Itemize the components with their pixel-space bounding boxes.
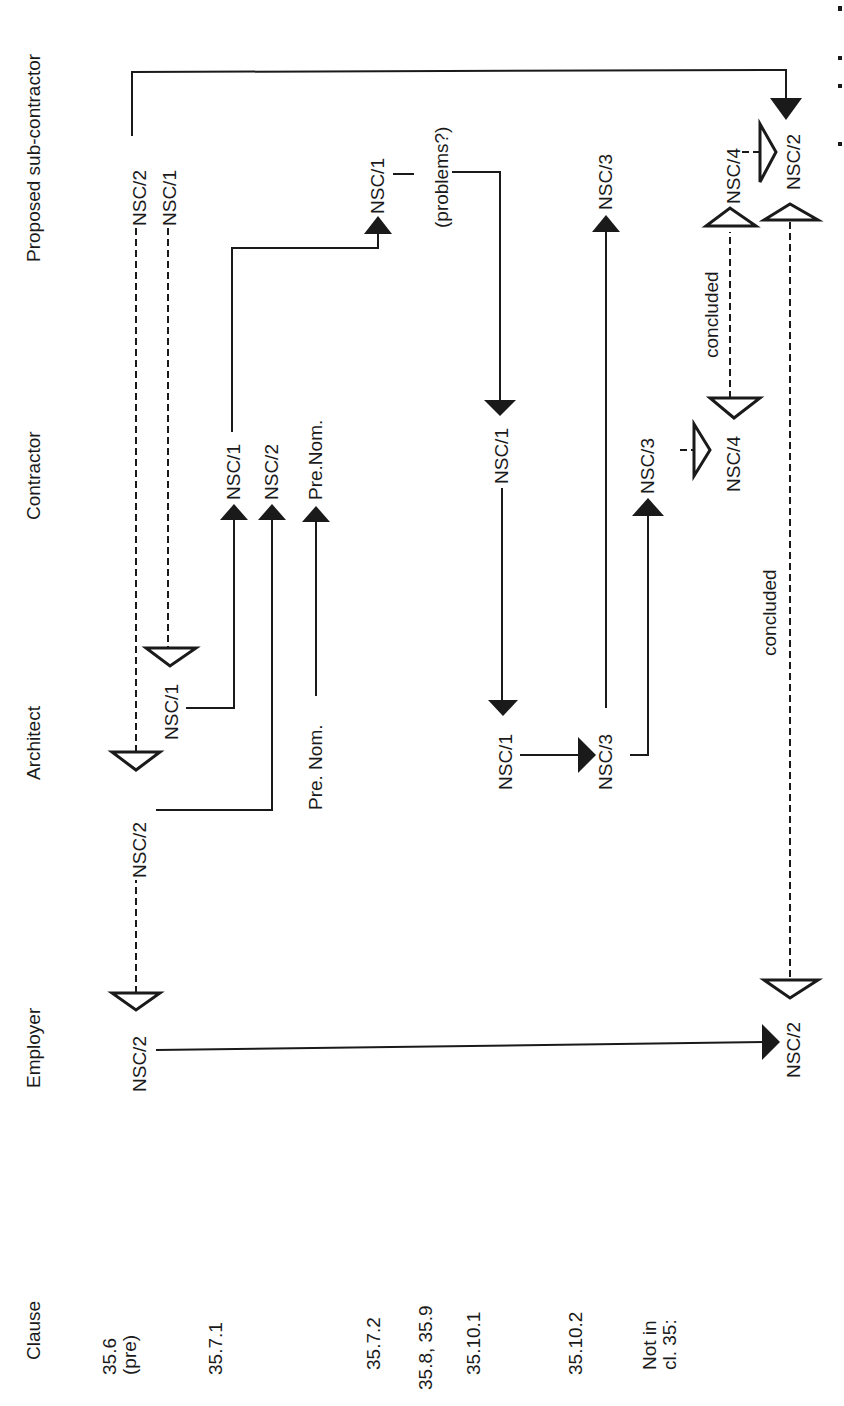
concluded-label-2: concluded bbox=[759, 569, 780, 656]
signed-triangle-icon bbox=[112, 752, 160, 770]
filled-arrow-icon bbox=[258, 504, 286, 520]
filled-arrow-icon bbox=[364, 216, 392, 234]
subcontractor-nsc2-b-label: NSC/2 bbox=[783, 134, 804, 190]
employer-nsc2-label: NSC/2 bbox=[129, 1036, 150, 1092]
clause-not-in-35-line1: Not in bbox=[639, 1320, 660, 1370]
subcontractor-nsc2-send-line bbox=[132, 70, 786, 136]
contractor-nsc4-label: NSC/4 bbox=[723, 436, 744, 492]
filled-arrow-icon bbox=[302, 506, 330, 522]
problems-label: (problems?) bbox=[431, 127, 452, 228]
employer-nsc2-send-arrow-line bbox=[156, 1042, 770, 1050]
clause-35-10-1: 35.10.1 bbox=[463, 1312, 484, 1375]
header-employer: Employer bbox=[23, 1007, 44, 1088]
clause-35-7-1: 35.7.1 bbox=[205, 1322, 226, 1375]
filled-arrow-icon bbox=[484, 400, 516, 416]
row-35-7-2: NSC/1 (problems?) NSC/1 bbox=[367, 127, 518, 716]
send-line bbox=[232, 228, 378, 432]
header-contractor: Contractor bbox=[23, 431, 44, 520]
send-line bbox=[186, 520, 234, 708]
filled-arrow-icon bbox=[488, 700, 518, 716]
contractor-prenom-label: Pre.Nom. bbox=[305, 420, 326, 500]
subcontractor-nsc3-label: NSC/3 bbox=[595, 154, 616, 210]
clause-35-8-35-9: 35.8, 35.9 bbox=[415, 1305, 436, 1390]
row-35-7-1: NSC/1 NSC/1 NSC/1 NSC/2 Pre. Nom. Pre.No… bbox=[146, 170, 392, 810]
signed-triangle-icon bbox=[760, 124, 776, 182]
clause-labels: 35.6 (pre) 35.7.1 35.7.2 35.8, 35.9 35.1… bbox=[99, 1305, 680, 1390]
clause-35-10-2: 35.10.2 bbox=[565, 1312, 586, 1375]
filled-arrow-icon bbox=[592, 215, 620, 232]
signed-triangle-icon bbox=[694, 424, 710, 476]
architect-nsc3-label: NSC/3 bbox=[595, 734, 616, 790]
contractor-nsc3-label: NSC/3 bbox=[637, 438, 658, 494]
subcontractor-nsc4-label: NSC/4 bbox=[723, 148, 744, 204]
column-headers: Clause Employer Architect Contractor Pro… bbox=[23, 53, 44, 1360]
signed-triangle-icon bbox=[764, 204, 818, 220]
filled-arrow-icon bbox=[220, 504, 248, 520]
caption-fragment bbox=[838, 6, 842, 146]
signed-triangle-icon bbox=[146, 648, 196, 666]
header-clause: Clause bbox=[23, 1301, 44, 1360]
filled-arrow-icon bbox=[762, 1024, 780, 1060]
signed-triangle-icon bbox=[706, 208, 756, 226]
architect-nsc1-c-label: NSC/1 bbox=[495, 734, 516, 790]
signed-triangle-icon bbox=[112, 993, 160, 1010]
concluded-label-1: concluded bbox=[701, 271, 722, 358]
send-line bbox=[452, 172, 500, 400]
architect-prenom-label: Pre. Nom. bbox=[305, 724, 326, 810]
header-subcontractor: Proposed sub-contractor bbox=[23, 53, 44, 262]
signed-triangle-icon bbox=[764, 980, 818, 998]
filled-arrow-icon bbox=[632, 498, 664, 516]
subcontractor-nsc1-b-label: NSC/1 bbox=[367, 158, 388, 214]
row-35-6: NSC/2 NSC/2 NSC/2 bbox=[112, 70, 802, 1092]
contractor-nsc2-label: NSC/2 bbox=[261, 444, 282, 500]
send-line bbox=[630, 516, 648, 755]
clause-35-6-pre: (pre) bbox=[119, 1335, 140, 1375]
clause-35-7-2: 35.7.2 bbox=[363, 1317, 384, 1370]
row-not-in-35: NSC/4 concluded NSC/4 NSC/2 concluded NS… bbox=[701, 124, 818, 1078]
filled-arrow-icon bbox=[578, 737, 596, 773]
architect-nsc1-label: NSC/1 bbox=[161, 684, 182, 740]
signed-triangle-icon bbox=[710, 398, 760, 418]
architect-nsc2-label: NSC/2 bbox=[129, 822, 150, 878]
nomination-procedure-diagram: Clause Employer Architect Contractor Pro… bbox=[0, 0, 844, 1406]
filled-arrow-icon bbox=[770, 98, 802, 120]
subcontractor-nsc1-label: NSC/1 bbox=[159, 170, 180, 226]
contractor-nsc1-b-label: NSC/1 bbox=[491, 428, 512, 484]
clause-not-in-35-line2: cl. 35: bbox=[659, 1319, 680, 1370]
subcontractor-nsc2-label: NSC/2 bbox=[129, 170, 150, 226]
contractor-nsc1-label: NSC/1 bbox=[223, 444, 244, 500]
employer-nsc2-b-label: NSC/2 bbox=[783, 1022, 804, 1078]
clause-35-6: 35.6 bbox=[99, 1338, 120, 1375]
header-architect: Architect bbox=[23, 705, 44, 780]
row-35-10: NSC/1 NSC/3 NSC/3 NSC/3 bbox=[495, 154, 710, 790]
